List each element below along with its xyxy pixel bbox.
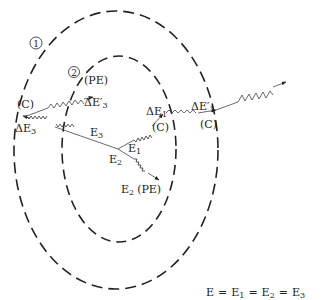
escape-line <box>216 102 238 110</box>
label-e3: E3 <box>90 126 103 140</box>
compton-diagram: 1 2 (PE) ΔE′3 (C) ΔE3 E3 ΔE1 (C) E1 E2 E… <box>0 0 324 300</box>
svg-text:1: 1 <box>33 39 39 49</box>
shell-1-marker: 1 <box>30 37 42 49</box>
e2-pe-arrow <box>148 173 159 180</box>
outer-shell <box>14 11 218 289</box>
de3-wavy <box>56 124 74 127</box>
label-de3: ΔE3 <box>15 122 36 136</box>
escape-wavy <box>238 91 273 102</box>
shell-2-marker: 2 <box>69 67 80 78</box>
e2-wavy <box>134 159 145 171</box>
label-de3-prime: ΔE′3 <box>84 96 108 110</box>
label-de1: ΔE1 <box>146 105 167 119</box>
e3-photon-path <box>55 127 118 149</box>
label-c-mid: (C) <box>152 121 169 134</box>
label-de1-prime: ΔE′1 <box>191 100 215 114</box>
label-c-left: (C) <box>17 98 34 111</box>
escape-arrow <box>273 82 286 87</box>
svg-text:2: 2 <box>71 68 77 78</box>
de3-electron-wavy <box>27 116 47 119</box>
label-e1: E1 <box>128 142 141 156</box>
de3-prime-wavy <box>48 100 84 108</box>
energy-equation: E=E1=E2=E3 <box>206 286 305 300</box>
label-c-right: (C) <box>200 118 217 131</box>
de1-wavy <box>134 135 152 142</box>
label-pe-top: (PE) <box>84 74 108 87</box>
label-e2-pe: E2(PE) <box>121 183 161 197</box>
label-e2: E2 <box>109 153 122 167</box>
inner-shell <box>62 56 176 242</box>
